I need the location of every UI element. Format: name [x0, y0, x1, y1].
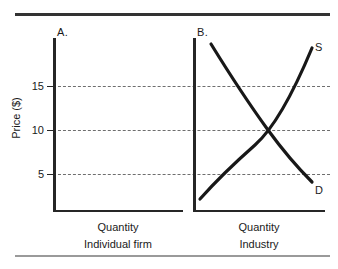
panel-a-caption: Quantity Individual firm — [53, 219, 183, 253]
panel-a-y-axis — [53, 38, 56, 210]
panel-a-caption-line2: Individual firm — [53, 236, 183, 253]
panel-a-caption-line1: Quantity — [53, 219, 183, 236]
panel-b-caption-line1: Quantity — [193, 219, 325, 236]
panel-b-caption-line2: Industry — [193, 236, 325, 253]
y-tick-label-5: 5 — [22, 168, 44, 180]
demand-curve-label: D — [315, 184, 323, 196]
panel-b-plot-area — [193, 38, 325, 212]
panel-a-x-axis — [53, 210, 183, 213]
bottom-rule — [15, 255, 330, 257]
panel-a-letter: A. — [57, 26, 68, 38]
y-axis-title: Price ($) — [10, 78, 22, 158]
panel-a-plot-area — [53, 38, 183, 212]
y-tick-label-10: 10 — [22, 124, 44, 136]
y-tick-label-15: 15 — [22, 80, 44, 92]
supply-curve-label: S — [315, 41, 322, 53]
top-rule — [15, 13, 330, 16]
economics-figure: 15 10 5 Price ($) A. B. S D Quantity Ind… — [0, 0, 338, 269]
panel-b-caption: Quantity Industry — [193, 219, 325, 253]
panel-b-x-axis — [193, 210, 325, 213]
panel-b-y-axis — [193, 38, 196, 210]
panel-b-letter: B. — [197, 26, 208, 38]
